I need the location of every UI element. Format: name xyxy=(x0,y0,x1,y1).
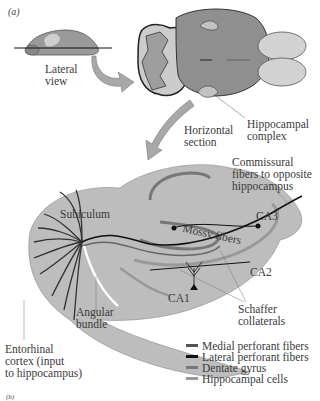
label-commissural-fibers: Commissural fibers to opposite hippocamp… xyxy=(232,156,312,192)
legend-item-medial: Medial perforant fibers xyxy=(186,340,309,351)
label-schaffer-collaterals: Schaffer collaterals xyxy=(238,303,285,327)
label-ca3: CA3 xyxy=(256,210,278,222)
panel-label-b: (b) xyxy=(6,393,14,401)
legend-item-hippocampal: Hippocampal cells xyxy=(186,373,309,384)
panel-label-a: (a) xyxy=(8,6,20,17)
leader-line xyxy=(216,96,245,118)
label-entorhinal-cortex: Entorhinal cortex (input to hippocampus) xyxy=(5,343,82,379)
legend-item-dentate: Dentate gyrus xyxy=(186,362,309,373)
legend-swatch-icon xyxy=(186,377,198,380)
label-ca1: CA1 xyxy=(168,292,190,304)
label-subiculum: Subiculum xyxy=(60,208,110,220)
legend-swatch-icon xyxy=(186,366,198,369)
label-horizontal-section: Horizontal section xyxy=(184,124,233,148)
lateral-brain-icon xyxy=(14,30,112,55)
legend-swatch-icon xyxy=(186,344,198,347)
arrow-lateral-to-horizontal-icon xyxy=(92,56,134,92)
legend-swatch-icon xyxy=(186,355,198,358)
legend-label: Hippocampal cells xyxy=(202,373,288,385)
horizontal-brain-section-icon xyxy=(138,9,306,97)
label-hippocampal-complex: Hippocampal complex xyxy=(247,118,309,142)
label-lateral-view: Lateral view xyxy=(45,63,78,87)
legend: Medial perforant fibers Lateral perforan… xyxy=(186,340,309,384)
label-angular-bundle: Angular bundle xyxy=(76,306,114,330)
label-ca2: CA2 xyxy=(250,266,272,278)
legend-item-lateral: Lateral perforant fibers xyxy=(186,351,309,362)
